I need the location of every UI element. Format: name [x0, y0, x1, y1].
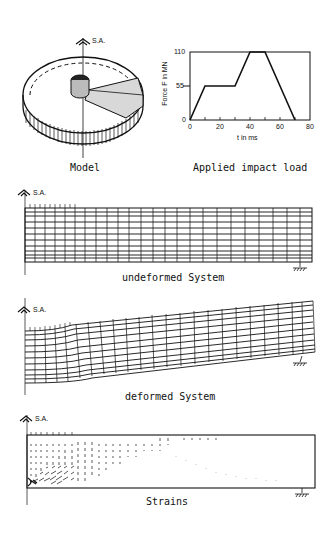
x-tick-20: 20 [216, 123, 224, 130]
strain-marks [31, 438, 216, 484]
deformed-axis-label: S.A. [33, 306, 46, 313]
model-drawing [23, 38, 143, 158]
y-tick-55: 55 [176, 82, 184, 89]
load-origin-icon [28, 478, 37, 486]
undeformed-caption: undeformed System [122, 272, 224, 283]
model-axis-label: S.A. [92, 37, 105, 44]
strains-axis-label: S.A. [35, 415, 48, 422]
chart-ylabel: Force F in MN [161, 61, 168, 105]
symmetry-axis-icon [18, 190, 30, 196]
disc-sector [85, 78, 143, 118]
impact-load-chart [183, 52, 310, 120]
impact-load-caption: Applied impact load [193, 162, 307, 173]
symmetry-axis-icon [20, 416, 32, 422]
y-tick-0: 0 [182, 116, 186, 123]
support-icon [293, 262, 307, 271]
x-tick-80: 80 [306, 123, 314, 130]
model-caption: Model [70, 162, 100, 173]
chart-xlabel: t in ms [237, 134, 258, 141]
undeformed-mesh [18, 190, 312, 275]
support-icon [295, 488, 309, 497]
symmetry-axis-icon [18, 307, 30, 313]
undeformed-axis-label: S.A. [33, 189, 46, 196]
x-tick-40: 40 [246, 123, 254, 130]
disc-hub-side [71, 80, 89, 98]
force-series-line [190, 52, 295, 120]
support-icon [293, 356, 307, 366]
strains-plot [20, 415, 315, 505]
deformed-caption: deformed System [125, 391, 215, 402]
deformed-mesh [18, 298, 315, 395]
strain-marks-faint [176, 456, 276, 481]
x-tick-60: 60 [276, 123, 284, 130]
y-tick-110: 110 [174, 48, 185, 55]
x-tick-0: 0 [188, 123, 192, 130]
strains-caption: Strains [146, 496, 188, 507]
